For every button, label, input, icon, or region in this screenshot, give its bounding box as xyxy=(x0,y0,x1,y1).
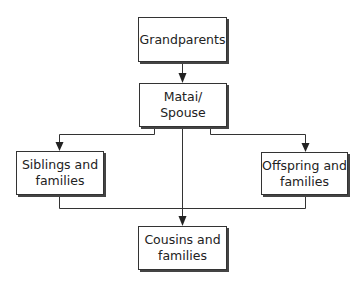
arrow-down-icon xyxy=(302,143,310,152)
node-label-line-2: families xyxy=(36,173,85,189)
node-label-line-1: Offspring and xyxy=(262,158,347,174)
arrow-down-icon xyxy=(179,73,187,83)
arrow-down-icon xyxy=(179,216,187,226)
node-label-line-2: Spouse xyxy=(160,105,206,121)
node-label-line-1: Siblings and xyxy=(22,157,98,173)
node-label-line-1: Cousins and xyxy=(144,232,220,248)
node-label-line-2: families xyxy=(280,174,329,190)
node-grandparents: Grandparents xyxy=(138,17,227,62)
node-offspring: Offspring and families xyxy=(261,152,348,195)
node-label: Grandparents xyxy=(140,32,226,48)
edge-matai-offspring xyxy=(211,127,306,143)
node-cousins: Cousins and families xyxy=(138,226,227,270)
kinship-diagram: Grandparents Matai/ Spouse Siblings and … xyxy=(0,0,362,283)
arrow-down-icon xyxy=(56,142,64,151)
node-matai-spouse: Matai/ Spouse xyxy=(139,83,227,127)
node-label-line-1: Matai/ xyxy=(164,89,203,105)
node-label-line-2: families xyxy=(158,248,207,264)
edge-matai-siblings xyxy=(60,127,155,142)
node-siblings: Siblings and families xyxy=(16,151,104,195)
